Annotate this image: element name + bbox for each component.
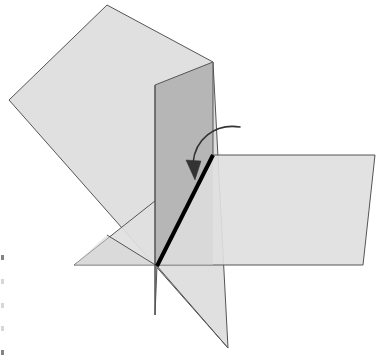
geometry-diagram — [0, 0, 381, 360]
diagram-canvas — [0, 0, 381, 360]
